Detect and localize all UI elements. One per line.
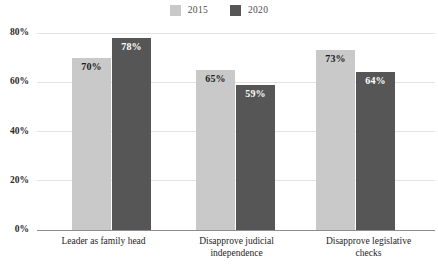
category-label-2-line1: Disapprove legislative [302,235,435,247]
category-label-2: Disapprove legislative checks [302,235,435,259]
bar-value-label: 73% [316,54,355,64]
category-label-2-line2: checks [302,247,435,259]
legend-swatch-2015 [170,5,181,16]
bar-value-label: 64% [356,76,395,86]
bar-2020-group-0: 78% [112,38,151,230]
y-axis-tick-20: 20% [0,176,29,186]
x-axis-line [37,230,435,231]
bar-value-label: 70% [72,62,111,72]
legend-label-2015: 2015 [188,6,208,16]
category-label-1-line1: Disapprove judicial [170,235,303,247]
bar-2020-group-2: 64% [356,72,395,230]
bar-2015-group-1: 65% [196,70,235,230]
y-axis-tick-80: 80% [0,28,29,38]
y-axis-tick-60: 60% [0,78,29,88]
legend-swatch-2020 [230,5,241,16]
legend-item-2020: 2020 [230,5,268,16]
grouped-bar-chart: 2015 2020 80%60%40%20%0%70%78%65%59%73%6… [0,0,438,265]
category-label-1: Disapprove judicial independence [170,235,303,259]
gridline-80 [37,33,435,34]
bar-value-label: 65% [196,74,235,84]
category-label-1-line2: independence [170,247,303,259]
chart-legend: 2015 2020 [0,5,438,16]
y-axis-tick-40: 40% [0,127,29,137]
bar-value-label: 59% [236,89,275,99]
bar-2020-group-1: 59% [236,85,275,230]
plot-area: 80%60%40%20%0%70%78%65%59%73%64% [37,33,435,230]
bar-2015-group-0: 70% [72,58,111,230]
legend-item-2015: 2015 [170,5,208,16]
legend-label-2020: 2020 [248,6,268,16]
bar-2015-group-2: 73% [316,50,355,230]
category-label-0: Leader as family head [37,235,170,247]
bar-value-label: 78% [112,42,151,52]
category-label-0-line1: Leader as family head [37,235,170,247]
y-axis-tick-0: 0% [0,225,29,235]
